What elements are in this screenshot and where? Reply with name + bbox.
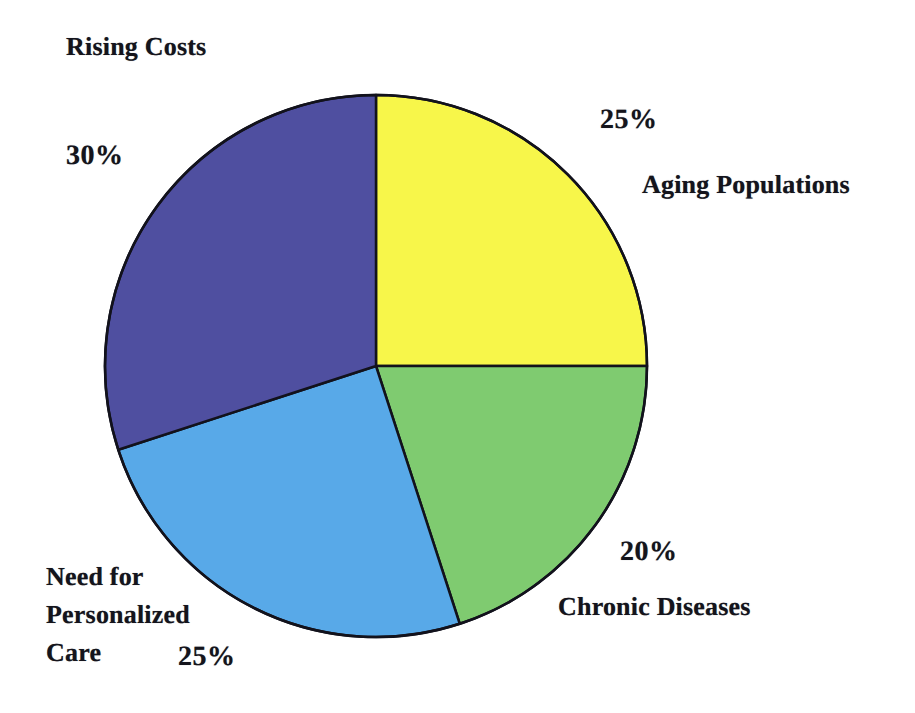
pie-slice-group [105,95,647,637]
slice-percent-need-for-personalized-care: 25% [178,641,236,673]
pie-chart-page: Rising Costs 30% 25% Aging Populations 2… [0,0,915,713]
slice-percent-aging-populations: 25% [600,104,658,136]
slice-label-chronic-diseases: Chronic Diseases [558,588,751,626]
slice-percent-rising-costs: 30% [66,140,124,172]
slice-label-aging-populations: Aging Populations [642,166,850,204]
slice-percent-chronic-diseases: 20% [620,536,678,568]
slice-label-rising-costs: Rising Costs [66,28,206,66]
slice-label-need-for-personalized-care: Need for Personalized Care [46,558,276,672]
